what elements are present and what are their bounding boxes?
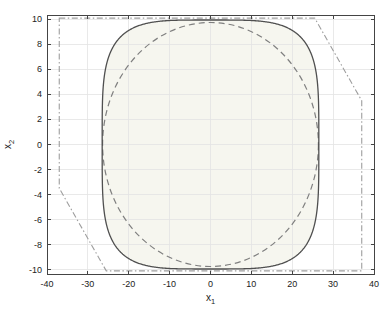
y-tick-label: 2 [37,114,42,124]
x-tick-label: 30 [328,279,338,289]
x-tick-label: 0 [208,279,213,289]
y-tick-label: 8 [37,39,42,49]
y-tick-label: 0 [37,140,42,150]
y-tick-label: -4 [34,190,42,200]
x-tick-label: 20 [287,279,297,289]
x-tick-label: -30 [81,279,94,289]
y-tick-label: -8 [34,240,42,250]
y-tick-label: 6 [37,64,42,74]
x-tick-label: 40 [369,279,379,289]
x-tick-label: -20 [122,279,135,289]
y-tick-label: 10 [32,14,42,24]
y-tick-label: -2 [34,165,42,175]
plot-canvas: -40-30-20-10010203040-10-8-6-4-20246810x… [0,0,391,322]
x-tick-label: -40 [40,279,53,289]
x-tick-label: -10 [163,279,176,289]
y-tick-label: -10 [29,265,42,275]
x-tick-label: 10 [246,279,256,289]
y-tick-label: 4 [37,89,42,99]
figure: -40-30-20-10010203040-10-8-6-4-20246810x… [0,0,391,322]
y-tick-label: -6 [34,215,42,225]
